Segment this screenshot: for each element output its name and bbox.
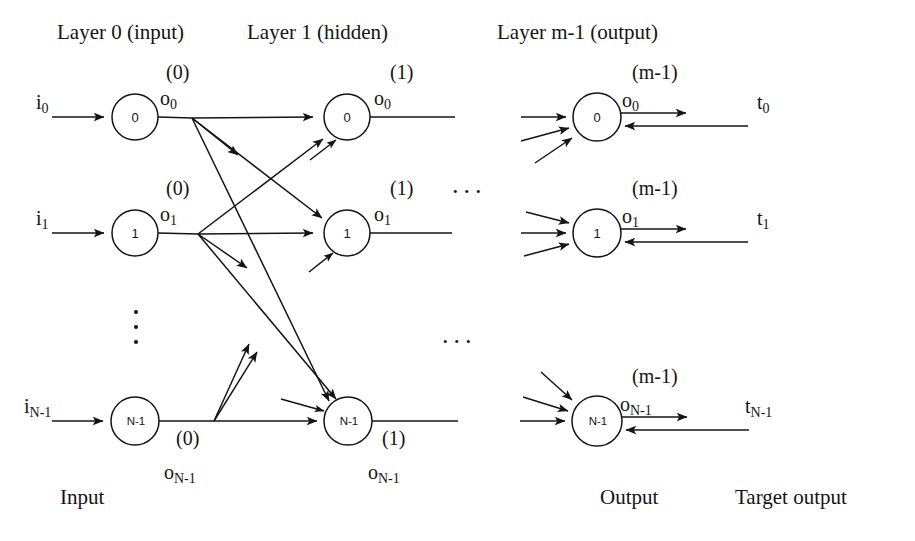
hidden-output-o0: o0 xyxy=(374,88,391,112)
target-signal-t0-sub: 0 xyxy=(763,101,770,116)
input-node-1-label: 1 xyxy=(131,226,138,241)
input-output-o0: o0 xyxy=(160,88,177,112)
diagram-canvas xyxy=(0,0,915,541)
input-signal-in1: iN-1 xyxy=(24,396,51,420)
input-signal-i1-sub: 1 xyxy=(42,217,49,232)
hidden-output-on1-sub: N-1 xyxy=(378,471,400,486)
target-signal-t1-sub: 1 xyxy=(763,217,770,232)
output-output-on1-base: o xyxy=(620,393,630,415)
header-layer-1: Layer 1 (hidden) xyxy=(247,22,388,43)
neural-network-diagram: Layer 0 (input) Layer 1 (hidden) Layer m… xyxy=(0,0,915,541)
hidden-node-n-label: N-1 xyxy=(340,415,359,427)
vertical-dot-3 xyxy=(134,340,138,344)
input-arrows xyxy=(52,117,104,421)
input-signal-in1-sub: N-1 xyxy=(30,405,52,420)
target-signal-tn1: tN-1 xyxy=(745,396,772,420)
hidden-node-1-label: 1 xyxy=(343,226,350,241)
output-output-o1: o1 xyxy=(622,206,639,230)
superscript-output-o0: (m-1) xyxy=(632,62,678,82)
hidden-output-o1-sub: 1 xyxy=(384,213,391,228)
output-output-o0: o0 xyxy=(622,90,639,114)
output-output-o1-sub: 1 xyxy=(632,215,639,230)
connections-from-input-n xyxy=(214,344,317,421)
superscript-input-o1: (0) xyxy=(166,178,189,198)
header-layer-0: Layer 0 (input) xyxy=(57,22,184,43)
input-output-o0-sub: 0 xyxy=(170,97,177,112)
output-node-1-label: 1 xyxy=(593,226,600,241)
input-node-n-label: N-1 xyxy=(127,415,146,427)
superscript-output-on1: (m-1) xyxy=(632,366,678,386)
superscript-hidden-o0: (1) xyxy=(390,62,413,82)
header-layer-m-1: Layer m-1 (output) xyxy=(497,22,658,43)
input-output-o1-sub: 1 xyxy=(170,213,177,228)
output-node-n-label: N-1 xyxy=(589,415,608,427)
input-node-circles xyxy=(111,94,159,445)
output-output-o0-sub: 0 xyxy=(632,99,639,114)
hidden-node-0-label: 0 xyxy=(343,110,350,125)
hidden-output-o0-sub: 0 xyxy=(384,97,391,112)
connections-from-input-0 xyxy=(192,117,329,401)
input-signal-i1: i1 xyxy=(36,208,49,232)
input-signal-i0: i0 xyxy=(36,92,49,116)
output-output-o1-base: o xyxy=(622,205,632,227)
connections-from-input-1 xyxy=(198,139,336,399)
hidden-output-o1-base: o xyxy=(374,203,384,225)
target-signal-tn1-sub: N-1 xyxy=(751,405,773,420)
superscript-input-on1: (0) xyxy=(176,428,199,448)
hidden-incoming-stubs xyxy=(281,140,336,411)
superscript-output-o1: (m-1) xyxy=(632,178,678,198)
footer-target-output: Target output xyxy=(735,487,847,508)
input-output-stubs xyxy=(158,117,214,421)
ellipsis-bottom: ... xyxy=(442,322,477,348)
vertical-dot-2 xyxy=(134,325,138,329)
input-node-0-label: 0 xyxy=(131,110,138,125)
input-signal-i0-sub: 0 xyxy=(42,101,49,116)
hidden-output-lines xyxy=(370,117,458,421)
input-output-o1-base: o xyxy=(160,203,170,225)
output-output-on1: oN-1 xyxy=(620,394,652,418)
target-signal-t0: t0 xyxy=(757,92,770,116)
hidden-output-o1: o1 xyxy=(374,204,391,228)
footer-output: Output xyxy=(600,487,658,508)
input-output-on1: oN-1 xyxy=(164,462,196,486)
target-signal-t1: t1 xyxy=(757,208,770,232)
ellipsis-top: ... xyxy=(452,172,487,198)
input-output-o0-base: o xyxy=(160,87,170,109)
superscript-hidden-on1: (1) xyxy=(382,428,405,448)
input-output-on1-base: o xyxy=(164,461,174,483)
hidden-output-on1-base: o xyxy=(368,461,378,483)
hidden-output-on1: oN-1 xyxy=(368,462,400,486)
output-output-o0-base: o xyxy=(622,89,632,111)
superscript-hidden-o1: (1) xyxy=(390,178,413,198)
output-node-circles xyxy=(572,93,622,446)
footer-input: Input xyxy=(60,487,104,508)
input-output-o1: o1 xyxy=(160,204,177,228)
hidden-output-o0-base: o xyxy=(374,87,384,109)
output-node-0-label: 0 xyxy=(593,110,600,125)
input-output-on1-sub: N-1 xyxy=(174,471,196,486)
output-output-on1-sub: N-1 xyxy=(630,403,652,418)
output-incoming-arrows xyxy=(520,117,572,421)
superscript-input-o0: (0) xyxy=(166,62,189,82)
vertical-dot-1 xyxy=(134,310,138,314)
